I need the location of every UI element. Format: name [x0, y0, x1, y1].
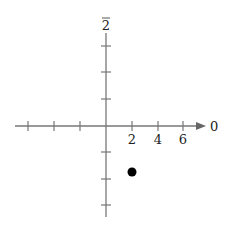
x-axis-arrow-icon	[196, 122, 206, 130]
x-tick-label: 4	[154, 132, 162, 147]
y-axis-label: 2	[102, 18, 110, 33]
x-axis-label: 0	[210, 119, 218, 134]
x-tick-label: 6	[179, 132, 187, 147]
coordinate-plane: 2 4 6 0 2	[0, 0, 228, 234]
data-point	[128, 168, 137, 177]
x-tick-label: 2	[128, 132, 136, 147]
